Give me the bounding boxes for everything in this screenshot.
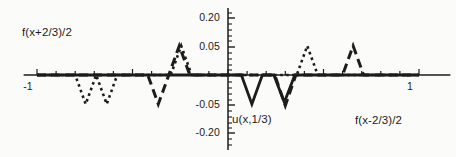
label-f-plus: f(x+2/3)/2: [22, 26, 72, 38]
x-tick-label-1: 1: [400, 80, 420, 92]
chart-figure: 0.200.05-0.05-0.20-11xf(x+2/3)/2u(x,1/3)…: [0, 0, 456, 157]
wavelet-plot-canvas: [0, 0, 456, 157]
y-tick-label--0.05: -0.05: [186, 98, 220, 110]
y-tick-label-0.05: 0.05: [186, 40, 220, 52]
label-u: u(x,1/3): [232, 113, 272, 125]
y-tick-label-0.20: 0.20: [186, 11, 220, 23]
y-tick-label--0.20: -0.20: [186, 126, 220, 138]
label-f-minus: f(x-2/3)/2: [355, 114, 402, 126]
x-tick-label--1: -1: [18, 80, 38, 92]
